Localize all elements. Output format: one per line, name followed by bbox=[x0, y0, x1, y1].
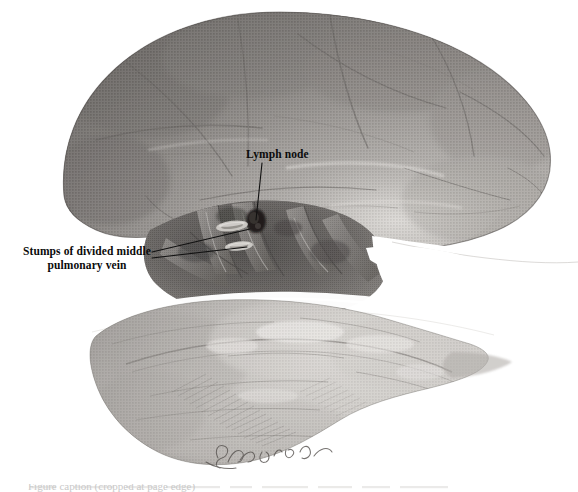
anatomical-figure: Lymph node Stumps of divided middle pulm… bbox=[0, 0, 578, 492]
label-stumps-of-divided-middle-pulmonary-vein: Stumps of divided middle pulmonary vein bbox=[8, 245, 166, 272]
label-stumps-line-1: Stumps of divided middle bbox=[8, 245, 166, 259]
figure-caption-strip: Figure caption (cropped at page edge) bbox=[0, 484, 578, 492]
label-lymph-node: Lymph node bbox=[246, 148, 309, 162]
figure-caption-text: Figure caption (cropped at page edge) bbox=[28, 484, 195, 492]
label-stumps-line-2: pulmonary vein bbox=[8, 259, 166, 273]
